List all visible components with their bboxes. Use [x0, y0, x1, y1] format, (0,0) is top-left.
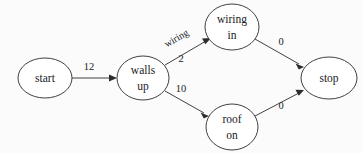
node-label-roof-on-line1: roof [222, 113, 241, 125]
edge-label-walls-up-to-roof-on: 10 [176, 83, 187, 94]
node-shape-wiring-in [205, 4, 259, 50]
edge-label-walls-up-to-wiring-in: 2 [178, 53, 183, 64]
edge-line-roof-on-to-stop [255, 93, 299, 116]
arrowhead-icon-roof-on-to-stop [295, 90, 304, 96]
state-transition-graph: 12 wiring 2 10 0 0 [0, 0, 363, 153]
edge-name-label-walls-up-to-wiring-in: wiring [162, 27, 190, 50]
node-label-wiring-in-line2: in [228, 29, 237, 41]
node-label-walls-up-line1: walls [131, 64, 156, 76]
node-label-stop: stop [319, 72, 338, 85]
node-wiring-in[interactable]: wiring in [205, 4, 259, 50]
node-shape-walls-up [117, 56, 169, 100]
node-label-start: start [35, 72, 56, 84]
arrowhead-icon-start-to-walls-up [109, 75, 117, 82]
node-stop[interactable]: stop [301, 57, 357, 99]
arrowhead-icon-wiring-in-to-stop [296, 63, 304, 69]
diagram-canvas: 12 wiring 2 10 0 0 [0, 0, 363, 153]
edge-walls-up-to-roof-on: 10 [165, 83, 209, 119]
edge-wiring-in-to-stop: 0 [255, 36, 304, 69]
edge-label-wiring-in-to-stop: 0 [278, 36, 283, 47]
node-walls-up[interactable]: walls up [117, 56, 169, 100]
node-roof-on[interactable]: roof on [206, 104, 258, 150]
node-shape-roof-on [206, 104, 258, 150]
edge-walls-up-to-wiring-in: wiring 2 [162, 27, 211, 65]
edge-label-roof-on-to-stop: 0 [278, 100, 283, 111]
edge-label-start-to-walls-up: 12 [84, 61, 95, 72]
edge-roof-on-to-stop: 0 [255, 90, 304, 116]
node-label-roof-on-line2: on [226, 129, 238, 141]
node-label-wiring-in-line1: wiring [217, 13, 247, 26]
edge-line-walls-up-to-roof-on [165, 91, 204, 113]
node-label-walls-up-line2: up [137, 80, 149, 93]
node-start[interactable]: start [18, 58, 72, 98]
edge-line-wiring-in-to-stop [255, 39, 299, 64]
edge-start-to-walls-up: 12 [72, 61, 117, 81]
